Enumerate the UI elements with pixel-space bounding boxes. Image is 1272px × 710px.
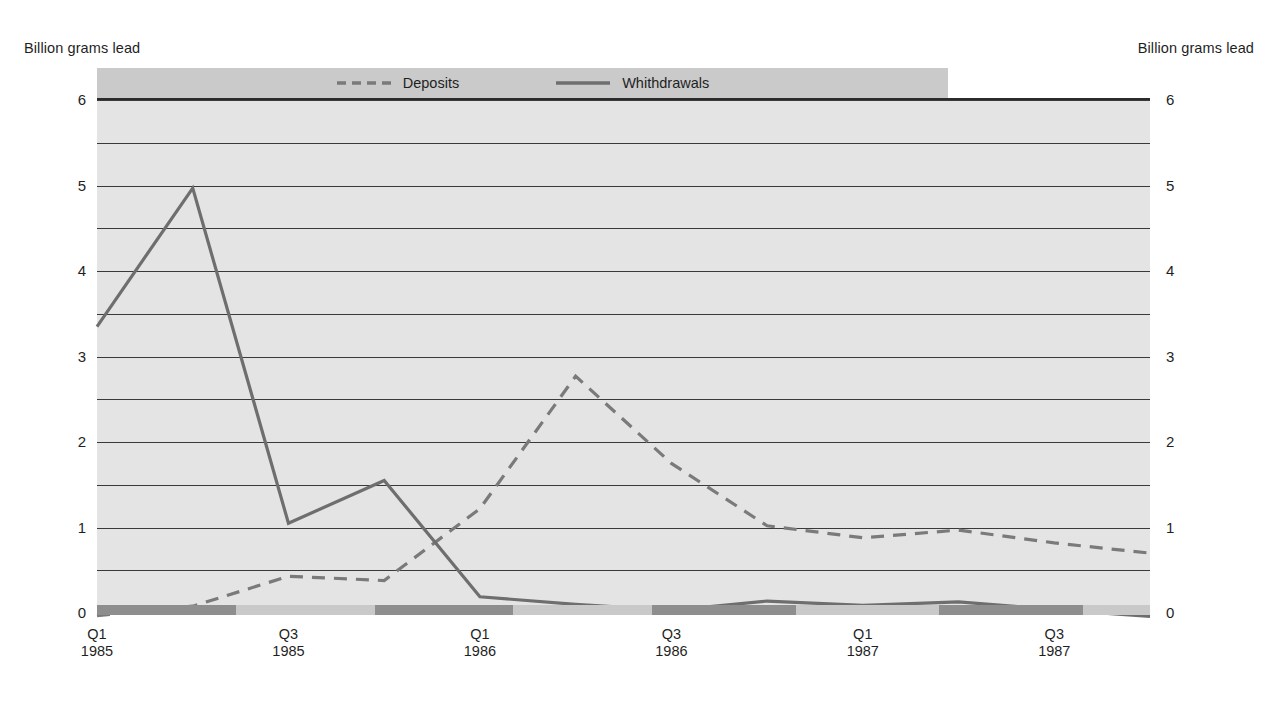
period-band-segment: [97, 605, 236, 615]
period-band-segment: [375, 605, 514, 615]
right-y-tick-label: 0: [1166, 605, 1174, 620]
x-tick-year: 1985: [272, 643, 304, 660]
right-y-tick-label: 6: [1166, 92, 1174, 107]
left-y-tick-label: 5: [78, 178, 86, 193]
chart-figure: Billion grams lead Billion grams lead De…: [0, 0, 1272, 710]
right-y-tick-label: 5: [1166, 178, 1174, 193]
period-band-segment: [652, 605, 796, 615]
x-tick-label: Q11986: [464, 626, 496, 660]
period-band-segment: [236, 605, 375, 615]
dashed-line-icon: [336, 77, 392, 89]
series-line-deposits: [97, 376, 1150, 615]
right-y-tick-label: 2: [1166, 434, 1174, 449]
x-tick-quarter: Q3: [655, 626, 687, 643]
right-axis-unit-label: Billion grams lead: [1138, 40, 1254, 56]
period-band-segment: [796, 605, 940, 615]
x-tick-quarter: Q1: [464, 626, 496, 643]
period-band-segment: [1083, 605, 1150, 615]
legend-item-deposits: Deposits: [336, 75, 459, 91]
plot-area: [97, 100, 1150, 613]
x-tick-year: 1987: [1038, 643, 1070, 660]
legend-items-container: DepositsWhithdrawals: [97, 68, 948, 98]
x-tick-year: 1986: [655, 643, 687, 660]
x-tick-label: Q11987: [847, 626, 879, 660]
legend-item-whithdrawals: Whithdrawals: [555, 75, 709, 91]
x-tick-year: 1985: [81, 643, 113, 660]
x-tick-label: Q11985: [81, 626, 113, 660]
x-tick-year: 1987: [847, 643, 879, 660]
left-y-tick-label: 1: [78, 520, 86, 535]
left-y-tick-label: 2: [78, 434, 86, 449]
left-y-tick-label: 3: [78, 349, 86, 364]
x-tick-quarter: Q1: [81, 626, 113, 643]
period-band-segment: [939, 605, 1083, 615]
legend-item-label: Deposits: [403, 75, 459, 91]
solid-line-icon: [555, 77, 611, 89]
right-y-tick-label: 3: [1166, 349, 1174, 364]
series-line-whithdrawals: [97, 188, 1150, 616]
x-axis-period-band: [97, 605, 1150, 615]
chart-legend: DepositsWhithdrawals: [97, 68, 948, 98]
x-tick-quarter: Q3: [272, 626, 304, 643]
right-y-tick-label: 1: [1166, 520, 1174, 535]
left-y-tick-label: 4: [78, 263, 86, 278]
x-tick-label: Q31985: [272, 626, 304, 660]
left-axis-unit-label: Billion grams lead: [24, 40, 140, 56]
legend-item-label: Whithdrawals: [622, 75, 709, 91]
period-band-segment: [513, 605, 652, 615]
left-y-tick-label: 6: [78, 92, 86, 107]
right-y-tick-label: 4: [1166, 263, 1174, 278]
x-tick-label: Q31986: [655, 626, 687, 660]
x-tick-quarter: Q3: [1038, 626, 1070, 643]
data-series-layer: [97, 100, 1150, 613]
left-y-tick-label: 0: [78, 605, 86, 620]
x-tick-quarter: Q1: [847, 626, 879, 643]
x-tick-year: 1986: [464, 643, 496, 660]
x-tick-label: Q31987: [1038, 626, 1070, 660]
